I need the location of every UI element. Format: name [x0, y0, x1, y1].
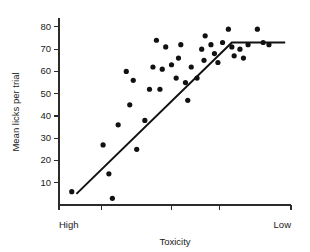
data-point: [208, 42, 213, 47]
data-point: [237, 47, 242, 52]
y-tick-label: 80: [40, 21, 51, 32]
data-point: [147, 87, 152, 92]
y-tick-label: 30: [40, 132, 51, 143]
data-point: [203, 33, 208, 38]
y-tick-label: 20: [40, 154, 51, 165]
x-axis-left-end-label: High: [59, 219, 79, 230]
data-point: [189, 64, 194, 69]
data-point: [174, 76, 179, 81]
data-point: [116, 122, 121, 127]
y-tick-label-group: 1020304050607080: [40, 21, 51, 188]
data-point: [150, 64, 155, 69]
y-tick-label: 40: [40, 110, 51, 121]
data-point: [212, 51, 217, 56]
data-point: [157, 87, 162, 92]
y-tick-group: [54, 27, 59, 183]
x-tick-group: [59, 205, 291, 210]
data-point: [255, 27, 260, 32]
data-point: [232, 53, 237, 58]
fitted-line: [76, 42, 285, 193]
y-axis: 1020304050607080 Mean licks per trial: [10, 18, 59, 205]
data-point: [106, 171, 111, 176]
data-point: [185, 98, 190, 103]
y-tick-label: 50: [40, 88, 51, 99]
y-axis-title: Mean licks per trial: [10, 72, 21, 151]
x-axis-right-end-label: Low: [274, 219, 292, 230]
data-point: [226, 27, 231, 32]
data-point: [160, 67, 165, 72]
data-point: [215, 60, 220, 65]
data-point: [134, 147, 139, 152]
data-point: [100, 142, 105, 147]
data-point-group: [69, 27, 271, 201]
data-point: [176, 55, 181, 60]
data-point: [154, 38, 159, 43]
x-axis: High Low Toxicity: [59, 205, 291, 247]
data-point: [127, 102, 132, 107]
data-point: [178, 42, 183, 47]
y-tick-label: 60: [40, 65, 51, 76]
y-tick-label: 70: [40, 43, 51, 54]
data-point: [163, 44, 168, 49]
data-point: [199, 47, 204, 52]
data-point: [110, 196, 115, 201]
data-point: [220, 40, 225, 45]
data-point: [201, 58, 206, 63]
data-point: [183, 80, 188, 85]
data-point: [241, 55, 246, 60]
data-point: [169, 62, 174, 67]
data-point: [69, 189, 74, 194]
scatter-plot: 1020304050607080 Mean licks per trial Hi…: [0, 0, 310, 252]
data-point: [131, 78, 136, 83]
chart-figure: 1020304050607080 Mean licks per trial Hi…: [0, 0, 310, 252]
data-point: [142, 118, 147, 123]
x-axis-title: Toxicity: [159, 236, 190, 247]
y-tick-label: 10: [40, 177, 51, 188]
data-point: [124, 69, 129, 74]
